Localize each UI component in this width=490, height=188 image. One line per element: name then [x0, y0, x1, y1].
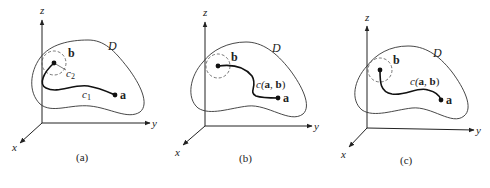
panel-a-caption: (a): [76, 151, 89, 164]
y-axis-label: y: [475, 124, 481, 136]
y-axis-label: y: [313, 120, 319, 132]
point-a-label: a: [283, 91, 289, 105]
panel-a: z y x D b a c2 c1 (a): [11, 4, 157, 164]
point-b-label: b: [68, 46, 75, 60]
x-axis-label: x: [340, 148, 346, 160]
point-b: [378, 68, 383, 73]
z-axis-label: z: [202, 6, 208, 18]
point-a-label: a: [446, 93, 452, 107]
point-b: [216, 64, 221, 69]
region-d-label: D: [432, 46, 442, 60]
curve-label: c(a, b): [410, 75, 440, 88]
point-a: [113, 93, 118, 98]
point-b-label: b: [393, 53, 400, 67]
region-d-label: D: [107, 39, 117, 53]
y-axis: [367, 128, 474, 130]
region-d: [32, 40, 144, 115]
point-b: [52, 61, 57, 66]
x-axis: [183, 126, 205, 145]
z-axis-label: z: [364, 11, 370, 23]
curve-c1-label: c1: [82, 88, 91, 102]
curve-c1: [42, 63, 115, 95]
panel-b: z y x D b a c(a, b) (b): [174, 6, 319, 165]
curve-label: c(a, b): [256, 78, 286, 91]
x-axis-label: x: [11, 141, 17, 153]
point-a: [439, 98, 444, 103]
y-axis-label: y: [151, 117, 157, 129]
z-axis-label: z: [39, 4, 45, 16]
region-d: [191, 42, 307, 117]
panel-c: z y x D b a c(a, b) (c): [340, 11, 481, 167]
panel-c-caption: (c): [400, 154, 413, 167]
point-a-label: a: [120, 88, 126, 102]
x-axis: [349, 128, 367, 147]
region-d-label: D: [271, 41, 281, 55]
point-b-label: b: [231, 50, 238, 64]
panel-b-caption: (b): [239, 152, 252, 165]
curve-c2-label: c2: [66, 67, 75, 81]
figure: z y x D b a c2 c1 (a) z y x D: [0, 0, 490, 188]
x-axis: [20, 123, 42, 143]
point-a: [276, 96, 281, 101]
x-axis-label: x: [174, 146, 180, 158]
